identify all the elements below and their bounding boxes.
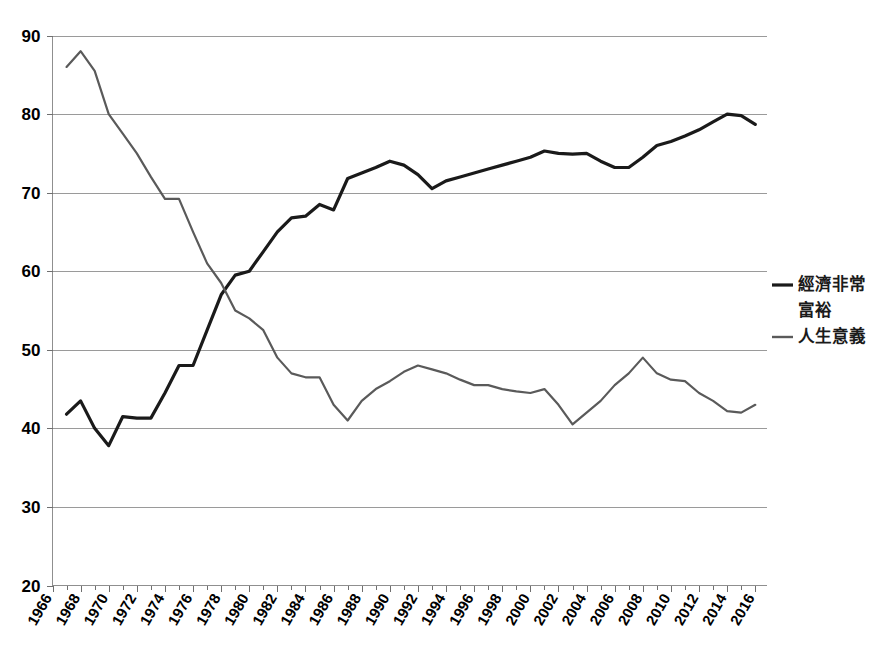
x-tick-label: 1994: [417, 590, 449, 628]
y-tick-label: 50: [22, 341, 41, 360]
x-tick-label: 1966: [24, 591, 55, 628]
x-tick-label: 1990: [361, 591, 392, 628]
line-chart: 2030405060708090 19661968197019721974197…: [0, 0, 883, 648]
y-tick-label: 70: [22, 184, 41, 203]
x-tick-label: 1968: [52, 591, 83, 628]
x-tick-label: 1984: [277, 590, 309, 628]
legend-label-1: 經濟非常: [798, 274, 866, 293]
x-tick-label: 1974: [136, 590, 168, 628]
x-tick-label: 1998: [473, 591, 504, 628]
x-tick-label: 2014: [698, 590, 730, 628]
y-tick-label: 90: [22, 27, 41, 46]
x-tick-labels: 1966196819701972197419761978198019821984…: [24, 590, 758, 628]
y-tick-label: 80: [22, 105, 41, 124]
x-tick-label: 1982: [249, 591, 280, 628]
legend-label-2: 人生意義: [798, 326, 866, 345]
x-tick-label: 1988: [333, 591, 364, 628]
x-tick-label: 1970: [80, 591, 111, 628]
x-tick-label: 2006: [586, 591, 617, 628]
y-tick-labels: 2030405060708090: [22, 27, 41, 596]
data-series: [67, 51, 756, 445]
x-tick-label: 1972: [108, 591, 139, 628]
x-axis: [53, 586, 767, 592]
x-tick-label: 1980: [220, 591, 251, 628]
x-tick-label: 2008: [614, 591, 645, 628]
y-tick-label: 30: [22, 498, 41, 517]
x-tick-label: 1996: [445, 591, 476, 628]
series-line-2: [67, 51, 756, 424]
x-tick-label: 2002: [530, 591, 561, 628]
y-tick-label: 20: [22, 577, 41, 596]
x-tick-label: 2000: [502, 591, 533, 628]
y-axis: [47, 36, 53, 587]
chart-canvas: 2030405060708090 19661968197019721974197…: [0, 0, 883, 648]
x-tick-label: 1986: [305, 591, 336, 628]
gridlines: [53, 37, 767, 508]
x-tick-label: 1992: [389, 591, 420, 628]
y-tick-label: 40: [22, 419, 41, 438]
y-tick-label: 60: [22, 262, 41, 281]
x-tick-label: 1976: [164, 591, 195, 628]
x-tick-label: 2012: [670, 591, 701, 628]
x-tick-label: 2004: [558, 590, 590, 628]
chart-legend: 經濟非常富裕人生意義: [772, 274, 866, 345]
legend-label-1-cont: 富裕: [798, 300, 832, 319]
x-tick-label: 1978: [192, 591, 223, 628]
x-tick-label: 2010: [642, 591, 673, 628]
x-tick-label: 2016: [726, 591, 757, 628]
series-line-1: [67, 114, 756, 446]
